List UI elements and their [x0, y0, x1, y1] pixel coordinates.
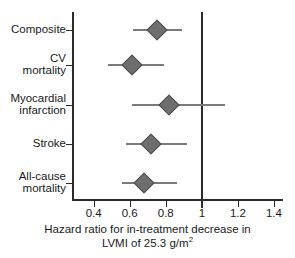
y-axis-line — [72, 12, 74, 201]
point-estimate-diamond — [134, 172, 155, 193]
x-axis-title: Hazard ratio for in-treatment decrease i… — [0, 222, 295, 250]
point-estimate-diamond — [146, 19, 167, 40]
x-tick-label-0.8: 0.8 — [158, 207, 174, 220]
x-tick-label-1.4: 1.4 — [266, 207, 282, 220]
x-axis-title-line-1: Hazard ratio for in-treatment decrease i… — [44, 223, 250, 235]
x-axis-title-superscript: 2 — [189, 235, 193, 244]
reference-line-hr-1 — [201, 12, 203, 201]
y-tick-3 — [66, 144, 73, 145]
y-axis-label-2: Myocardial infarction — [10, 92, 66, 117]
y-axis-label-4: All-cause mortality — [19, 170, 66, 195]
y-tick-4 — [66, 183, 73, 184]
y-axis-label-3: Stroke — [33, 137, 66, 150]
x-axis-line — [72, 199, 283, 201]
forest-plot-figure: CompositeCV mortalityMyocardial infarcti… — [0, 0, 295, 258]
x-axis-title-line-2-text: LVMI of 25.3 g/m — [102, 237, 189, 249]
y-tick-1 — [66, 65, 73, 66]
point-estimate-diamond — [141, 133, 162, 154]
y-tick-2 — [66, 105, 73, 106]
x-tick-label-0.6: 0.6 — [122, 207, 138, 220]
point-estimate-diamond — [121, 54, 142, 75]
y-axis-label-1: CV mortality — [23, 52, 66, 77]
x-tick-label-1: 1 — [199, 207, 205, 220]
x-tick-label-0.4: 0.4 — [86, 207, 102, 220]
y-axis-label-0: Composite — [11, 23, 66, 36]
point-estimate-diamond — [159, 94, 180, 115]
x-axis-title-line-2: LVMI of 25.3 g/m2 — [0, 236, 295, 250]
x-tick-label-1.2: 1.2 — [230, 207, 246, 220]
y-tick-0 — [66, 30, 73, 31]
